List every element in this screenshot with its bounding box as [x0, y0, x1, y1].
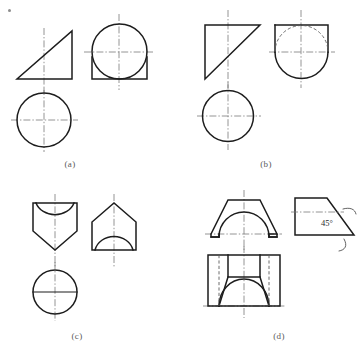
figure-b-front-view — [205, 10, 260, 88]
circle-outline — [92, 24, 147, 79]
figure-a-side-view — [84, 14, 155, 90]
figure-a-drawing — [0, 0, 181, 176]
figure-c-caption: (c) — [57, 331, 97, 341]
square-base — [92, 57, 147, 79]
leader-arc-upper — [343, 208, 356, 214]
figure-a-front-view — [17, 28, 72, 92]
figure-d-top-view — [203, 246, 286, 318]
figure-a-top-view — [11, 88, 78, 152]
leader-arc-lower — [339, 239, 346, 251]
figure-c-top-view — [33, 262, 77, 321]
figure-c-drawing — [0, 176, 181, 351]
lower-arc — [275, 52, 328, 78]
figure-d-caption: (d) — [259, 331, 299, 341]
figure-d-side-view: 45° — [291, 198, 356, 251]
chamfered-outline — [295, 198, 354, 235]
figure-d: 45° (d) — [181, 176, 362, 351]
figure-d-front-view — [205, 190, 282, 250]
figure-b-top-view — [197, 82, 261, 150]
figure-b: (b) — [181, 0, 362, 176]
hidden-upper-arc — [275, 26, 328, 52]
figure-b-caption: (b) — [246, 159, 286, 169]
figure-b-side-view — [269, 10, 335, 88]
right-triangle — [205, 25, 260, 79]
right-triangle — [17, 31, 72, 79]
figure-b-drawing — [181, 0, 362, 176]
figure-c-front-view — [33, 194, 77, 268]
figure-a-caption: (a) — [50, 159, 90, 169]
drawing-sheet: (a) (b) — [0, 0, 362, 351]
figure-a: (a) — [0, 0, 181, 176]
angle-annotation: 45° — [321, 218, 333, 228]
figure-c: (c) — [0, 176, 181, 351]
figure-d-drawing: 45° — [181, 176, 362, 351]
figure-c-side-view — [92, 194, 136, 268]
square-top — [275, 25, 328, 52]
